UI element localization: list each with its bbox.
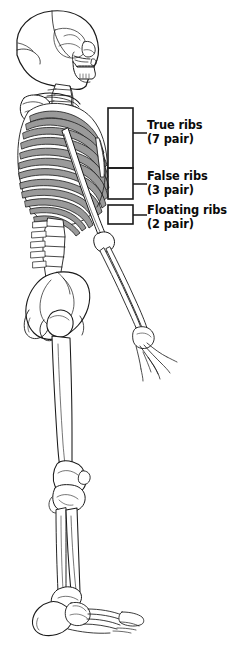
label-floating-ribs-line2: (2 pair) [147, 218, 227, 232]
label-true-ribs-line2: (7 pair) [147, 133, 203, 147]
orbit [82, 41, 95, 57]
label-true-ribs-line1: True ribs [147, 118, 203, 132]
spinous-process-1 [33, 221, 47, 228]
spinous-process-5 [33, 261, 46, 268]
label-false-ribs-line2: (3 pair) [147, 184, 208, 198]
label-false-ribs-line1: False ribs [147, 169, 208, 183]
femoral-head [47, 310, 73, 337]
tibial-plateau [53, 485, 85, 513]
label-floating-ribs: Floating ribs (2 pair) [147, 204, 227, 231]
label-true-ribs: True ribs (7 pair) [147, 119, 203, 146]
spinous-process-2 [32, 231, 46, 238]
spinous-process-3 [31, 241, 45, 248]
patella [78, 471, 90, 485]
spinous-process-4 [31, 251, 45, 258]
carpals [133, 327, 155, 349]
skeleton-illustration [0, 0, 230, 649]
label-floating-ribs-line1: Floating ribs [147, 203, 227, 217]
label-false-ribs: False ribs (3 pair) [147, 170, 208, 197]
